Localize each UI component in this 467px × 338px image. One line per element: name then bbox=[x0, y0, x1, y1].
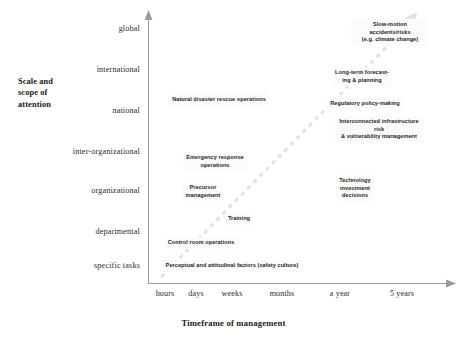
x-tick-days: days bbox=[188, 289, 203, 298]
y-tick-international: international bbox=[97, 65, 140, 75]
item-long-term-forecasting: Long-term forecast- ing & planning bbox=[332, 67, 392, 86]
x-tick-months: months bbox=[270, 289, 295, 298]
item-emergency-response: Emergency response operations bbox=[183, 152, 247, 171]
diagram-canvas: Scale and scope of attention global inte… bbox=[0, 0, 467, 338]
y-tick-specific-tasks: specific tasks bbox=[94, 261, 140, 271]
x-tick-5-years: 5 years bbox=[390, 289, 414, 298]
item-regulatory-policy-making: Regulatory policy-making bbox=[327, 98, 403, 110]
x-tick-a-year: a year bbox=[330, 289, 350, 298]
y-axis-title: Scale and scope of attention bbox=[18, 76, 96, 110]
item-precursor-management: Precursor management bbox=[182, 182, 223, 201]
item-technology-investment: Technology investment decisions bbox=[336, 175, 373, 202]
item-interconnected-infrastructure-risk: Interconnected infrastructure risk & vul… bbox=[335, 116, 423, 143]
y-axis-arrowhead bbox=[145, 10, 153, 20]
item-training: Training bbox=[225, 213, 253, 225]
item-slow-motion-accidents: Slow-motion accidents/risks (e.g. climat… bbox=[352, 19, 429, 46]
y-axis-title-line-1: Scale and bbox=[18, 76, 96, 87]
item-perceptual-attitudinal-factors: Perceptual and attitudinal factors (safe… bbox=[163, 260, 302, 272]
y-axis-title-line-2: scope of bbox=[18, 87, 96, 98]
y-tick-global: global bbox=[119, 24, 140, 34]
y-tick-national: national bbox=[112, 106, 140, 116]
item-natural-disaster-rescue: Natural disaster rescue operations bbox=[169, 94, 269, 106]
y-axis-title-line-3: attention bbox=[18, 99, 96, 110]
item-control-room-operations: Control room operations bbox=[165, 237, 238, 249]
y-tick-inter-organizational: inter-organizational bbox=[73, 147, 140, 157]
y-tick-departmental: departmental bbox=[95, 227, 140, 237]
x-tick-hours: hours bbox=[156, 289, 175, 298]
x-tick-weeks: weeks bbox=[222, 289, 243, 298]
x-axis-arrowhead bbox=[446, 280, 456, 288]
y-tick-organizational: organizational bbox=[91, 186, 140, 196]
x-axis-title: Timeframe of management bbox=[0, 318, 467, 328]
